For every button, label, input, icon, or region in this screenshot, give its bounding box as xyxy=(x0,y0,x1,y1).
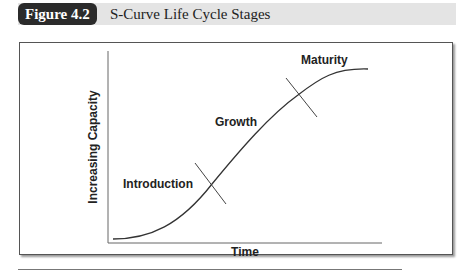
label-introduction: Introduction xyxy=(123,177,193,191)
x-axis-label: Time xyxy=(231,245,259,259)
y-axis-label: Increasing Capacity xyxy=(86,90,100,204)
s-curve-line xyxy=(113,69,368,239)
label-maturity: Maturity xyxy=(301,53,348,67)
s-curve-diagram: Introduction Growth Maturity Time Increa… xyxy=(0,0,473,275)
label-growth: Growth xyxy=(215,115,257,129)
bottom-rule xyxy=(18,269,402,270)
